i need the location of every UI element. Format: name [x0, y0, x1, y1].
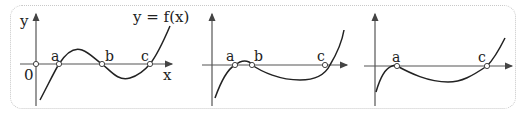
panel-3-graph: a c: [364, 14, 512, 106]
panel-3-root-a-label: a: [392, 49, 400, 65]
graphs-canvas: y x 0 y = f(x) a b c a b c a c: [0, 0, 526, 117]
panel-2-root-c-label: c: [317, 48, 325, 64]
panel-2-root-a-label: a: [226, 48, 234, 64]
panel-1-graph: y x 0 y = f(x) a b c: [19, 8, 189, 106]
panel-1-root-a-label: a: [51, 48, 59, 64]
panel-3-root-c-label: c: [478, 49, 486, 65]
panel-1-root-b-label: b: [105, 48, 114, 64]
panel-1-x-label: x: [163, 66, 172, 84]
panel-1-root-b: [99, 61, 104, 66]
panel-2-root-b-label: b: [254, 48, 263, 64]
panel-2-graph: a b c: [202, 14, 347, 106]
panel-1-origin-point: [33, 61, 38, 66]
panel-1-origin-label: 0: [24, 66, 34, 84]
panel-1-function-label: y = f(x): [132, 8, 189, 26]
panel-1-root-c-label: c: [141, 48, 149, 64]
panel-1-y-label: y: [19, 12, 29, 30]
